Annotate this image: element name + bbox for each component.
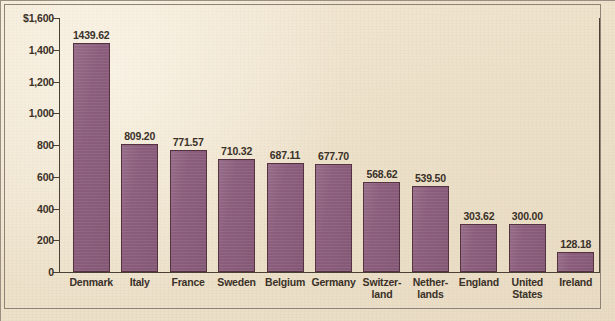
x-axis-category-label: Ireland — [559, 276, 592, 288]
bar-value-label: 677.70 — [318, 150, 349, 162]
x-axis-category-label-line: Belgium — [265, 276, 305, 288]
y-axis-tick-label: 0 — [48, 266, 54, 278]
scan-edge-left — [0, 0, 1, 321]
y-axis-tick-label: 800 — [37, 139, 54, 151]
y-axis-tick-label: 1,400 — [29, 44, 54, 56]
bar: 809.20Italy — [121, 144, 158, 272]
bar-value-label: 539.50 — [415, 172, 446, 184]
plot-area: 02004006008001,0001,2001,400$1,600 1439.… — [59, 18, 600, 272]
bar: 300.00UnitedStates — [509, 224, 546, 272]
y-axis-tick-label: 1,000 — [29, 107, 54, 119]
x-axis-category-label-line: Nether- — [413, 276, 448, 288]
x-axis-category-label: Denmark — [69, 276, 113, 288]
x-axis-category-label-line: United — [512, 276, 543, 288]
x-axis-category-label: Germany — [311, 276, 355, 288]
x-axis-category-label-line: Germany — [311, 276, 355, 288]
y-axis-tick-label: 400 — [37, 203, 54, 215]
x-axis-category-label-line: Italy — [130, 276, 150, 288]
x-axis-category-label-line: lands — [413, 288, 448, 300]
bar-value-label: 303.62 — [463, 210, 494, 222]
bar-value-label: 771.57 — [173, 136, 204, 148]
bar: 303.62England — [460, 224, 497, 272]
bar-value-label: 128.18 — [560, 238, 591, 250]
plot-right-border — [599, 18, 600, 273]
x-axis-category-label: Belgium — [265, 276, 305, 288]
x-axis-category-label-line: Sweden — [217, 276, 255, 288]
x-axis-category-label: UnitedStates — [512, 276, 543, 300]
x-axis-category-label: England — [459, 276, 499, 288]
x-axis-category-label: Switzer-land — [363, 276, 402, 300]
bar-chart-figure: 02004006008001,0001,2001,400$1,600 1439.… — [0, 0, 615, 321]
bar: 677.70Germany — [315, 164, 352, 272]
bar-value-label: 568.62 — [366, 168, 397, 180]
y-axis-tick-label: 1,200 — [29, 76, 54, 88]
x-axis-category-label: Nether-lands — [413, 276, 448, 300]
x-axis-category-label: France — [172, 276, 205, 288]
bar-value-label: 687.11 — [270, 149, 300, 161]
bar: 1439.62Denmark — [73, 43, 110, 272]
bar-value-label: 710.32 — [221, 145, 252, 157]
x-axis-category-label-line: land — [363, 288, 402, 300]
y-axis-tick-label: 200 — [37, 234, 54, 246]
y-axis-line — [59, 18, 60, 273]
x-axis-category-label-line: Denmark — [69, 276, 113, 288]
x-axis-category-label-line: Ireland — [559, 276, 592, 288]
scan-edge-top — [0, 0, 615, 1]
bar: 687.11Belgium — [267, 163, 304, 272]
x-axis-category-label-line: Switzer- — [363, 276, 402, 288]
x-axis-category-label-line: States — [512, 288, 543, 300]
bar: 128.18Ireland — [557, 252, 594, 272]
bar-value-label: 300.00 — [512, 210, 543, 222]
y-axis-tick-label: 600 — [37, 171, 54, 183]
x-axis-category-label: Italy — [130, 276, 150, 288]
bar-value-label: 1439.62 — [73, 29, 110, 41]
bar-value-label: 809.20 — [124, 130, 155, 142]
x-axis-category-label: Sweden — [217, 276, 255, 288]
x-axis-category-label-line: England — [459, 276, 499, 288]
bar: 568.62Switzer-land — [363, 182, 400, 272]
y-axis-tick-label: $1,600 — [23, 12, 54, 24]
bar: 771.57France — [170, 150, 207, 272]
x-axis-line — [59, 272, 600, 273]
bar: 710.32Sweden — [218, 159, 255, 272]
x-axis-category-label-line: France — [172, 276, 205, 288]
bar: 539.50Nether-lands — [412, 186, 449, 272]
